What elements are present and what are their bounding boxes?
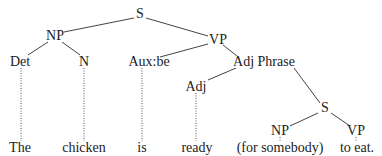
node-np: NP [46, 29, 64, 43]
syntax-tree: S NP VP Det N Aux:be Adj Phrase Adj S NP… [0, 0, 382, 156]
node-np-embedded: NP [271, 124, 289, 138]
edge-s-np [64, 18, 134, 32]
edge-np-det [28, 42, 48, 55]
node-det: Det [10, 55, 30, 69]
edge-s-np2 [290, 113, 318, 126]
edge-s-vp [146, 18, 208, 36]
node-aux-be: Aux:be [128, 55, 169, 69]
word-ready: ready [181, 141, 212, 155]
node-adj: Adj [186, 80, 207, 94]
edge-adjphrase-adj [208, 68, 236, 80]
word-is: is [137, 141, 146, 155]
edge-np-n [62, 42, 80, 55]
word-to-eat: to eat. [340, 141, 374, 155]
word-the: The [9, 141, 31, 155]
node-vp: VP [209, 33, 227, 47]
tree-edges [0, 0, 382, 156]
node-vp-embedded: VP [347, 124, 365, 138]
edge-adjphrase-s [294, 68, 320, 103]
node-s: S [136, 7, 144, 21]
word-for-somebody: (for somebody) [237, 141, 324, 155]
node-n: N [79, 55, 89, 69]
node-s-embedded: S [321, 101, 329, 115]
node-adj-phrase: Adj Phrase [233, 55, 295, 69]
word-chicken: chicken [62, 141, 106, 155]
